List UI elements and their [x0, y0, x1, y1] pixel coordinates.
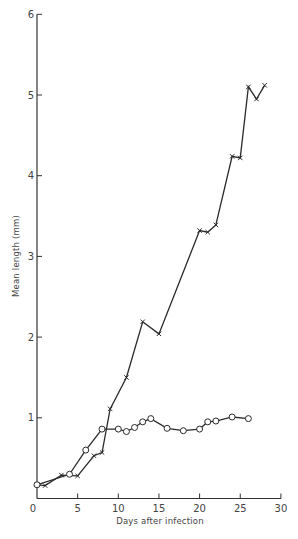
series-circles	[34, 414, 251, 488]
line-chart: 051015202530123456 Days after infection …	[0, 0, 298, 539]
circle-marker	[132, 424, 138, 430]
circle-marker	[164, 425, 170, 431]
series-group	[34, 83, 267, 488]
series-crosses	[35, 83, 267, 488]
circle-marker	[99, 426, 105, 432]
circle-marker	[205, 419, 211, 425]
x-tick-label: 25	[234, 503, 247, 514]
circle-marker	[229, 414, 235, 420]
x-axis-label: Days after infection	[116, 516, 204, 526]
x-tick-label: 10	[112, 503, 125, 514]
circle-marker	[140, 419, 146, 425]
circle-marker	[180, 428, 186, 434]
cross-marker	[262, 83, 266, 87]
x-tick-label: 15	[153, 503, 166, 514]
cross-marker	[254, 97, 258, 101]
circle-marker	[148, 416, 154, 422]
y-tick-label: 3	[28, 251, 34, 262]
y-tick-label: 5	[28, 90, 34, 101]
y-tick-label: 4	[28, 170, 34, 181]
axes: 051015202530123456	[28, 9, 288, 514]
series-line	[37, 85, 265, 485]
circle-marker	[245, 416, 251, 422]
y-tick-label: 6	[28, 9, 34, 20]
x-tick-label: 5	[74, 503, 80, 514]
circle-marker	[197, 426, 203, 432]
circle-marker	[213, 418, 219, 424]
circle-marker	[67, 471, 73, 477]
circle-marker	[115, 426, 121, 432]
circle-marker	[34, 482, 40, 488]
x-tick-label: 0	[30, 503, 36, 514]
x-tick-label: 30	[275, 503, 288, 514]
y-tick-label: 1	[28, 412, 34, 423]
y-axis-label: Mean length (mm)	[11, 215, 21, 297]
y-tick-label: 2	[28, 332, 34, 343]
x-tick-label: 20	[193, 503, 206, 514]
circle-marker	[123, 429, 129, 435]
circle-marker	[83, 447, 89, 453]
